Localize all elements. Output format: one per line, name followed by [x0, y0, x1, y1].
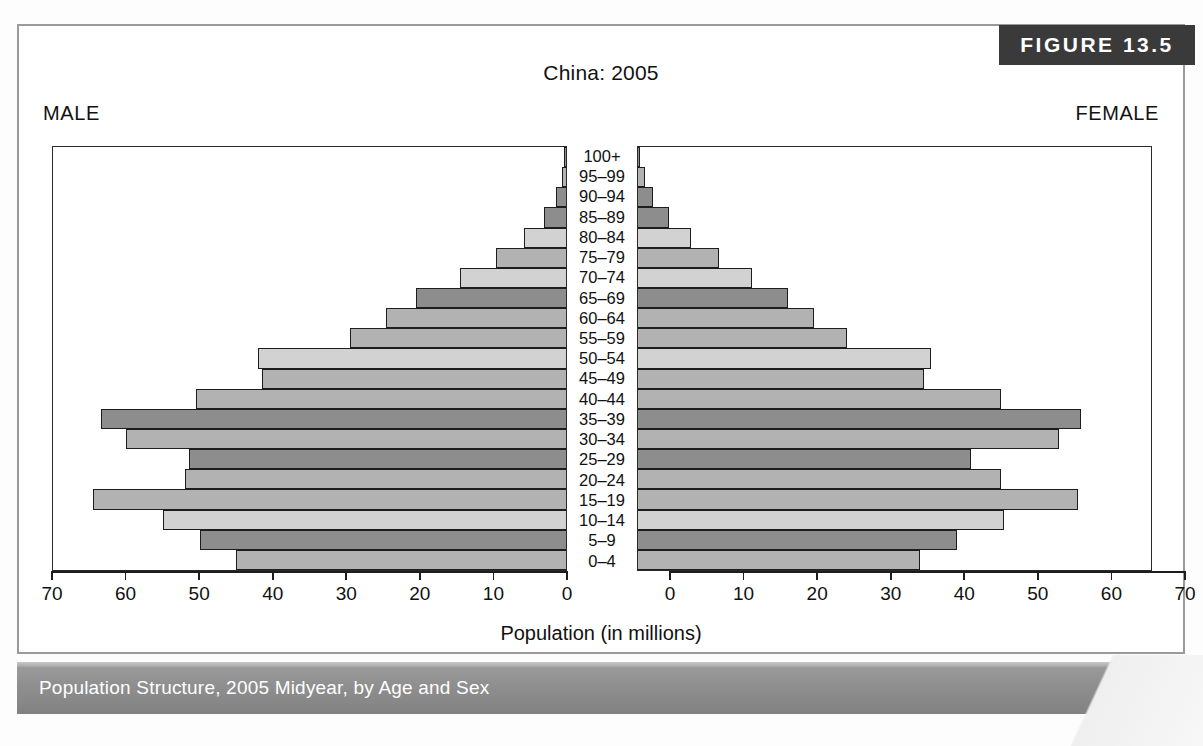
pyramid-row: [638, 409, 1151, 429]
pyramid-row: [53, 409, 566, 429]
bar-right: [638, 510, 1004, 530]
axis-tick-label: 0: [665, 583, 676, 605]
population-pyramid-plot: 100+95–9990–9485–8980–8475–7970–7465–696…: [52, 146, 1152, 571]
caption-text: Population Structure, 2005 Midyear, by A…: [39, 677, 489, 699]
age-group-label: 25–29: [567, 450, 637, 470]
pyramid-row: [638, 469, 1151, 489]
pyramid-row: [638, 207, 1151, 227]
bar-left: [350, 328, 566, 348]
bar-left: [258, 348, 566, 368]
axis-tick-label: 60: [115, 583, 136, 605]
axis-tick: [816, 571, 818, 580]
age-group-label: 90–94: [567, 186, 637, 206]
pyramid-row: [638, 328, 1151, 348]
pyramid-row: [638, 228, 1151, 248]
age-group-label: 10–14: [567, 510, 637, 530]
axis-tick-label: 50: [189, 583, 210, 605]
pyramid-row: [638, 369, 1151, 389]
axis-tick: [1111, 571, 1113, 580]
pyramid-row: [638, 187, 1151, 207]
male-x-axis: 706050403020100: [52, 571, 567, 617]
bar-right: [638, 248, 719, 268]
age-group-label: 75–79: [567, 247, 637, 267]
bar-right: [638, 308, 814, 328]
axis-tick-label: 10: [483, 583, 504, 605]
female-bar-rows: [638, 147, 1151, 570]
axis-tick-label: 20: [807, 583, 828, 605]
pyramid-row: [53, 167, 566, 187]
bar-right: [638, 288, 788, 308]
pyramid-row: [53, 348, 566, 368]
bar-left: [200, 530, 566, 550]
pyramid-row: [638, 308, 1151, 328]
axis-tick: [51, 571, 53, 580]
bar-right: [638, 409, 1081, 429]
age-group-label: 0–4: [567, 551, 637, 571]
bar-left: [460, 268, 566, 288]
axis-tick-label: 0: [562, 583, 573, 605]
age-group-label: 60–64: [567, 308, 637, 328]
bar-right: [638, 449, 971, 469]
age-group-labels: 100+95–9990–9485–8980–8475–7970–7465–696…: [567, 146, 637, 571]
bar-left: [386, 308, 566, 328]
bar-left: [544, 207, 566, 227]
bar-right: [638, 550, 920, 570]
bar-left: [163, 510, 566, 530]
bar-right: [638, 389, 1001, 409]
pyramid-row: [53, 510, 566, 530]
axis-tick-label: 30: [336, 583, 357, 605]
age-group-label: 65–69: [567, 288, 637, 308]
axis-tick: [890, 571, 892, 580]
age-group-label: 100+: [567, 146, 637, 166]
axis-tick: [1184, 571, 1186, 580]
bar-left: [556, 187, 566, 207]
bar-right: [638, 429, 1059, 449]
axis-tick-label: 10: [733, 583, 754, 605]
axis-tick-label: 70: [1174, 583, 1195, 605]
age-group-label: 55–59: [567, 328, 637, 348]
pyramid-row: [638, 429, 1151, 449]
bar-right: [638, 147, 640, 167]
axis-tick: [419, 571, 421, 580]
age-group-label: 50–54: [567, 348, 637, 368]
bar-left: [562, 167, 566, 187]
pyramid-row: [53, 268, 566, 288]
bar-right: [638, 207, 669, 227]
bar-left: [496, 248, 566, 268]
axis-tick: [566, 571, 568, 580]
bar-left: [185, 469, 566, 489]
bar-left: [236, 550, 566, 570]
pyramid-row: [638, 530, 1151, 550]
pyramid-row: [53, 389, 566, 409]
age-group-label: 30–34: [567, 429, 637, 449]
age-group-label: 70–74: [567, 267, 637, 287]
axis-tick: [669, 571, 671, 580]
pyramid-row: [53, 469, 566, 489]
axis-tick-label: 40: [954, 583, 975, 605]
age-group-label: 95–99: [567, 166, 637, 186]
pyramid-row: [638, 449, 1151, 469]
pyramid-row: [638, 389, 1151, 409]
age-group-label: 45–49: [567, 369, 637, 389]
bar-left: [93, 489, 566, 509]
bar-right: [638, 469, 1001, 489]
pyramid-row: [638, 268, 1151, 288]
figure-number-text: FIGURE 13.5: [1020, 33, 1174, 57]
figure-card: China: 2005 MALE FEMALE 100+95–9990–9485…: [17, 24, 1185, 654]
bar-left: [416, 288, 566, 308]
bar-right: [638, 328, 847, 348]
age-group-label: 5–9: [567, 530, 637, 550]
pyramid-row: [53, 328, 566, 348]
pyramid-row: [53, 449, 566, 469]
bar-right: [638, 369, 924, 389]
male-bar-rows: [53, 147, 566, 570]
bar-right: [638, 268, 752, 288]
pyramid-row: [53, 530, 566, 550]
x-axis-title: Population (in millions): [19, 622, 1183, 645]
pyramid-row: [638, 147, 1151, 167]
pyramid-row: [53, 369, 566, 389]
age-group-label: 85–89: [567, 207, 637, 227]
age-group-label: 40–44: [567, 389, 637, 409]
pyramid-row: [53, 288, 566, 308]
axis-tick-label: 60: [1101, 583, 1122, 605]
